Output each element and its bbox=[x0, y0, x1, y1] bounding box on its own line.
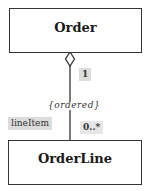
multiplicity-part: 0..* bbox=[80, 121, 103, 134]
class-order[interactable]: Order bbox=[9, 8, 142, 53]
class-orderline[interactable]: OrderLine bbox=[8, 140, 142, 185]
class-name-orderline: OrderLine bbox=[38, 152, 112, 184]
uml-diagram: Order 1 {ordered} lineItem 0..* OrderLin… bbox=[0, 0, 150, 191]
role-name-lineitem: lineItem bbox=[8, 117, 52, 130]
multiplicity-whole: 1 bbox=[79, 68, 91, 81]
ordered-constraint: {ordered} bbox=[48, 101, 100, 110]
class-name-order: Order bbox=[54, 21, 96, 52]
aggregation-diamond-icon bbox=[66, 52, 75, 66]
